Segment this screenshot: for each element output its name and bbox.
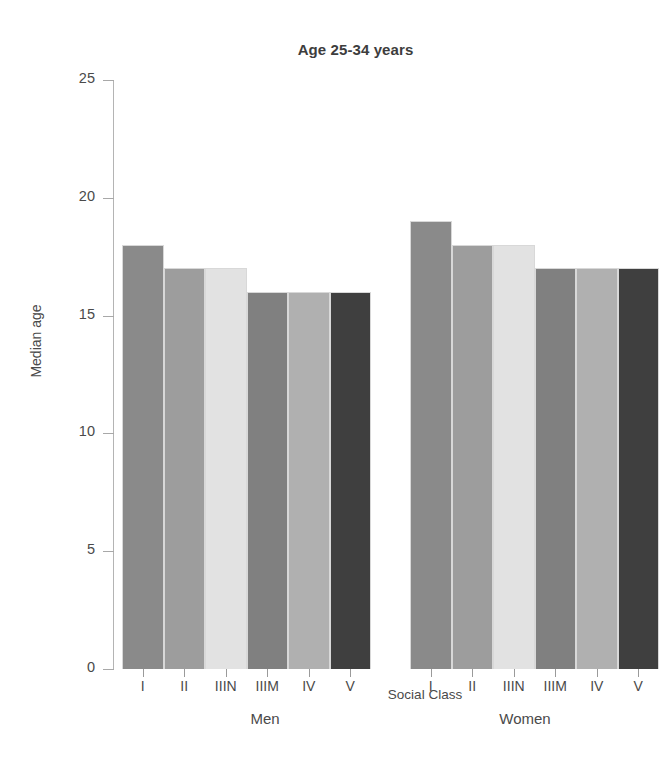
bar-women-iv [576, 268, 618, 669]
bar-women-iiin [493, 245, 535, 669]
plot-area [113, 80, 643, 669]
x-tick-mark [350, 669, 351, 677]
group-label-men: Men [185, 710, 345, 727]
y-tick-label: 0 [35, 660, 95, 675]
chart-figure: Age 25-34 years Median age 2520151050 II… [0, 0, 659, 760]
bar-men-iv [288, 292, 330, 669]
x-tick-label-women-v: V [608, 679, 659, 693]
x-tick-mark [226, 669, 227, 677]
x-tick-mark [514, 669, 515, 677]
bar-women-v [618, 268, 659, 669]
x-tick-mark [597, 669, 598, 677]
x-tick-mark [638, 669, 639, 677]
y-tick-label: 25 [35, 71, 95, 86]
page-title: Age 25-34 years [0, 41, 659, 58]
y-axis-title: Median age [28, 281, 44, 401]
bar-women-ii [452, 245, 494, 669]
x-tick-mark [472, 669, 473, 677]
y-tick-label: 20 [35, 189, 95, 204]
x-tick-mark [184, 669, 185, 677]
y-tick-label: 10 [35, 424, 95, 439]
x-tick-mark [431, 669, 432, 677]
x-tick-mark [267, 669, 268, 677]
x-tick-mark [555, 669, 556, 677]
x-tick-mark [143, 669, 144, 677]
x-tick-mark [309, 669, 310, 677]
y-tick-label: 15 [35, 307, 95, 322]
x-axis-title: Social Class [355, 687, 495, 702]
bar-men-i [122, 245, 164, 669]
bar-men-iiim [247, 292, 289, 669]
bar-men-iiin [205, 268, 247, 669]
bar-men-v [330, 292, 372, 669]
y-tick-mark [103, 669, 114, 670]
bar-women-iiim [535, 268, 577, 669]
group-label-women: Women [445, 710, 605, 727]
y-tick-label: 5 [35, 542, 95, 557]
bar-men-ii [164, 268, 206, 669]
bar-women-i [410, 221, 452, 669]
